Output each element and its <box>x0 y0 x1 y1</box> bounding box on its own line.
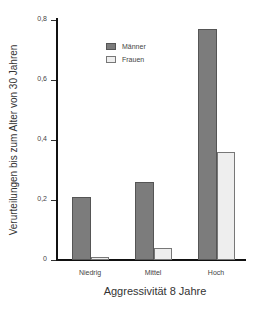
bar-hoch-frauen <box>217 152 235 260</box>
y-tick-label: 0,6 <box>17 75 47 82</box>
legend-label: Männer <box>122 43 146 50</box>
bar-mittel-frauen <box>154 248 172 260</box>
y-tick <box>51 20 56 21</box>
legend-label: Frauen <box>122 56 144 63</box>
legend: Männer Frauen <box>106 40 146 66</box>
legend-swatch-frauen <box>106 56 116 63</box>
y-axis-line <box>56 18 58 261</box>
y-tick <box>51 80 56 81</box>
legend-item-frauen: Frauen <box>106 53 146 66</box>
y-tick-label: 0 <box>17 255 47 262</box>
bar-hoch-maenner <box>198 29 217 260</box>
y-tick-label: 0,8 <box>17 15 47 22</box>
x-axis-title: Aggressivität 8 Jahre <box>60 285 250 297</box>
bar-niedrig-maenner <box>72 197 91 260</box>
bar-chart: Verurteilungen bis zum Alter von 30 Jahr… <box>0 0 257 310</box>
x-category-label: Niedrig <box>65 269 115 276</box>
y-tick-label: 0,4 <box>17 135 47 142</box>
bar-niedrig-frauen <box>91 257 109 260</box>
legend-item-maenner: Männer <box>106 40 146 53</box>
x-category-label: Mittel <box>128 269 178 276</box>
y-tick-label: 0,2 <box>17 195 47 202</box>
x-category-label: Hoch <box>191 269 241 276</box>
legend-swatch-maenner <box>106 43 116 50</box>
y-tick <box>51 200 56 201</box>
bar-mittel-maenner <box>135 182 154 260</box>
y-tick <box>51 260 56 261</box>
y-tick <box>51 140 56 141</box>
